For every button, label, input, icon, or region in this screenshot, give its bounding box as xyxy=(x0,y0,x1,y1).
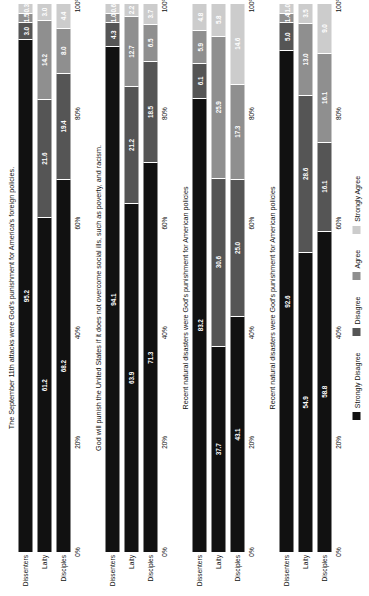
bar-value-label: 16.1 xyxy=(320,92,327,104)
category-label: Dissenters xyxy=(279,555,293,586)
bar-value-label: 5.0 xyxy=(283,32,290,41)
bar-value-label: 4.3 xyxy=(109,30,116,39)
category-label: Disciples xyxy=(230,555,244,581)
x-axis-tick-label: 40% xyxy=(334,326,341,339)
legend-item[interactable]: Agree xyxy=(352,250,360,281)
bar-value-label: 4.8 xyxy=(196,13,203,22)
bar-value-label: 18.5 xyxy=(146,106,153,118)
bar-group: 95.23.01.50.361.221.614.23.068.219.48.04… xyxy=(16,4,72,552)
x-axis-tick-label: 80% xyxy=(334,107,341,120)
x-axis-ticks: 0%20%40%60%80%100% xyxy=(160,4,171,552)
chart-legend: Strongly DisagreeDisagreeAgreeStrongly A… xyxy=(347,4,365,592)
bar-row: 83.26.15.94.8 xyxy=(192,4,206,552)
bar-value-label: 94.1 xyxy=(109,294,116,306)
bar-value-label: 9.0 xyxy=(320,24,327,33)
bar-value-label: 21.2 xyxy=(127,139,134,151)
bar-segment: 94.1 xyxy=(105,47,119,552)
x-axis: 0%20%40%60%80%100% xyxy=(334,4,345,592)
bar-segment: 0.3 xyxy=(18,4,32,14)
bar-segment: 18.5 xyxy=(143,62,157,164)
plot-area: DissentersLaityDisciples94.14.31.00.663.… xyxy=(103,4,159,592)
x-axis-tick-label: 100% xyxy=(334,0,341,12)
category-axis-labels: DissentersLaityDisciples xyxy=(16,552,72,592)
category-label: Dissenters xyxy=(105,555,119,586)
x-axis-tick-label: 60% xyxy=(73,217,80,230)
bar-segment: 71.3 xyxy=(143,163,157,552)
bar-value-label: 71.3 xyxy=(146,352,153,364)
bar-value-label: 1.0 xyxy=(109,14,116,23)
stacked-bar-chart-figure: The September 11th attacks were God's pu… xyxy=(0,0,369,596)
legend-label: Disagree xyxy=(353,296,360,324)
bar-group: 92.65.01.41.054.928.613.03.558.816.116.1… xyxy=(277,4,333,552)
bar-value-label: 92.6 xyxy=(283,296,290,308)
bar-value-label: 3.7 xyxy=(146,10,153,19)
x-axis-tick-label: 0% xyxy=(334,547,341,556)
bar-segment: 4.8 xyxy=(192,4,206,31)
category-axis-labels: DissentersLaityDisciples xyxy=(277,552,333,592)
category-label: Dissenters xyxy=(18,555,32,586)
bar-segment: 21.6 xyxy=(37,100,51,219)
chart-panel: God will punish the United States if it … xyxy=(93,4,171,592)
bar-segment: 54.9 xyxy=(298,253,312,552)
x-axis-tick-label: 20% xyxy=(334,436,341,449)
bar-value-label: 14.6 xyxy=(233,38,240,50)
bar-row: 95.23.01.50.3 xyxy=(18,4,32,552)
bar-value-label: 3.0 xyxy=(40,8,47,17)
x-axis-tick-label: 40% xyxy=(73,326,80,339)
plot-area: DissentersLaityDisciples92.65.01.41.054.… xyxy=(277,4,333,592)
legend-item[interactable]: Disagree xyxy=(352,296,360,336)
bar-segment: 16.1 xyxy=(317,143,331,232)
category-label: Dissenters xyxy=(192,555,206,586)
bar-value-label: 12.7 xyxy=(127,46,134,58)
x-axis: 0%20%40%60%80%100% xyxy=(73,4,84,592)
bar-segment: 8.0 xyxy=(56,29,70,74)
bar-segment: 1.0 xyxy=(279,4,293,14)
bar-value-label: 0.3 xyxy=(22,4,29,13)
x-axis-tick-label: 100% xyxy=(247,0,254,12)
category-label: Laity xyxy=(298,555,312,569)
bar-value-label: 13.0 xyxy=(301,53,308,65)
bar-segment: 37.7 xyxy=(211,347,225,552)
bar-value-label: 25.9 xyxy=(214,101,221,113)
bar-value-label: 1.0 xyxy=(283,4,290,13)
x-axis-ticks: 0%20%40%60%80%100% xyxy=(334,4,345,552)
bar-value-label: 61.2 xyxy=(40,379,47,391)
category-label: Laity xyxy=(37,555,51,569)
x-axis-tick-label: 0% xyxy=(73,547,80,556)
bar-segment: 19.4 xyxy=(56,74,70,181)
bar-group: 83.26.15.94.837.730.625.95.843.125.017.3… xyxy=(190,4,246,552)
bar-segment: 3.5 xyxy=(298,4,312,24)
bar-row: 63.921.212.72.2 xyxy=(124,4,138,552)
legend-item[interactable]: Strongly Disagree xyxy=(352,353,360,421)
bar-group: 94.14.31.00.663.921.212.72.271.318.56.53… xyxy=(103,4,159,552)
bar-segment: 0.6 xyxy=(105,4,119,14)
panel-title: Recent natural disasters were God's puni… xyxy=(267,4,277,592)
bar-segment: 92.6 xyxy=(279,51,293,552)
bar-value-label: 5.9 xyxy=(196,43,203,52)
chart-panel: Recent natural disasters were God's puni… xyxy=(180,4,258,592)
bar-segment: 95.2 xyxy=(18,40,32,552)
bar-segment: 63.9 xyxy=(124,204,138,552)
bar-value-label: 3.0 xyxy=(22,27,29,36)
bar-value-label: 0.6 xyxy=(109,4,116,13)
panel-title: The September 11th attacks were God's pu… xyxy=(6,4,16,592)
bar-value-label: 37.7 xyxy=(214,443,221,455)
bar-value-label: 58.8 xyxy=(320,386,327,398)
bar-value-label: 63.9 xyxy=(127,372,134,384)
bar-segment: 30.6 xyxy=(211,179,225,347)
bar-segment: 6.5 xyxy=(143,25,157,61)
bar-value-label: 19.4 xyxy=(59,120,66,132)
x-axis-tick-label: 60% xyxy=(160,217,167,230)
bar-segment: 28.6 xyxy=(298,96,312,253)
bar-segment: 43.1 xyxy=(230,317,244,552)
bar-segment: 2.2 xyxy=(124,4,138,17)
bar-segment: 12.7 xyxy=(124,17,138,87)
x-axis-tick-label: 20% xyxy=(247,436,254,449)
bar-value-label: 1.5 xyxy=(22,14,29,23)
x-axis-tick-label: 80% xyxy=(247,107,254,120)
x-axis-tick-label: 60% xyxy=(247,217,254,230)
bar-value-label: 8.0 xyxy=(59,47,66,56)
bar-segment: 4.4 xyxy=(56,4,70,29)
legend-item[interactable]: Strongly Agree xyxy=(352,176,360,234)
bar-value-label: 14.2 xyxy=(40,54,47,66)
